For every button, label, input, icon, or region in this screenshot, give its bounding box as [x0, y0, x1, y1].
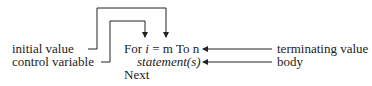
- next-line: Next: [124, 68, 149, 82]
- control-variable-label: control variable: [12, 55, 94, 69]
- body-label: body: [277, 55, 303, 69]
